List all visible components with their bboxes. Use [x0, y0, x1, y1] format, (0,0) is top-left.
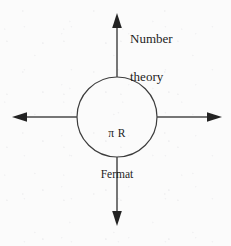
label-number-theory-line-2: theory	[130, 71, 173, 84]
central-node-line-1: π R	[77, 127, 157, 141]
label-number-theory: Number theory	[130, 8, 173, 108]
arrow-left	[12, 112, 77, 122]
arrow-down-head	[112, 211, 122, 226]
central-node-line-2: Fermat	[77, 168, 157, 182]
arrow-left-head	[12, 112, 27, 122]
arrow-right-head	[207, 112, 222, 122]
label-number-theory-line-1: Number	[130, 33, 173, 46]
arrow-up	[112, 13, 122, 77]
arrow-right	[157, 112, 222, 122]
central-node-text: π R Fermat	[77, 100, 157, 208]
arrow-up-head	[112, 13, 122, 28]
figure-canvas: Number theory π R Fermat	[0, 0, 231, 246]
